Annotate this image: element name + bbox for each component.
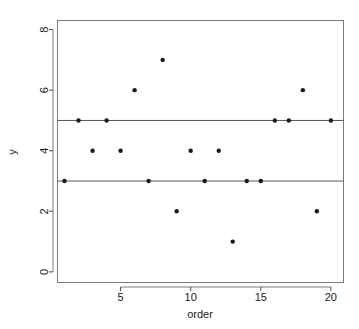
data-point [76,118,80,122]
data-point [245,179,249,183]
data-point [146,179,150,183]
y-tick-label: 6 [38,87,50,93]
x-axis-title: order [187,308,213,320]
data-point [287,118,291,122]
x-tick-label: 20 [325,291,337,303]
data-point [315,209,319,213]
data-point [301,88,305,92]
data-point [329,118,333,122]
reference-lines-group [58,120,344,181]
plot-panel [58,21,344,283]
y-axis-title: y [6,149,18,155]
data-point [160,58,164,62]
data-point [259,179,263,183]
x-tick-label: 10 [185,291,197,303]
data-point [203,179,207,183]
y-tick-label: 2 [38,208,50,214]
y-axis-group: 02468 [38,27,53,275]
scatter-chart: 5101520 02468 order y [0,0,359,329]
panel-border [58,21,344,283]
data-points-group [62,58,333,244]
y-tick-label: 8 [38,27,50,33]
y-tick-label: 4 [38,148,50,154]
data-point [104,118,108,122]
x-axis-group: 5101520 [118,287,337,303]
data-point [62,179,66,183]
data-point [174,209,178,213]
plot-canvas: 5101520 02468 order y [0,0,359,329]
data-point [231,239,235,243]
x-tick-label: 5 [118,291,124,303]
data-point [273,118,277,122]
y-tick-label: 0 [38,269,50,275]
data-point [132,88,136,92]
x-tick-label: 15 [255,291,267,303]
data-point [217,149,221,153]
data-point [90,149,94,153]
data-point [188,149,192,153]
data-point [118,149,122,153]
